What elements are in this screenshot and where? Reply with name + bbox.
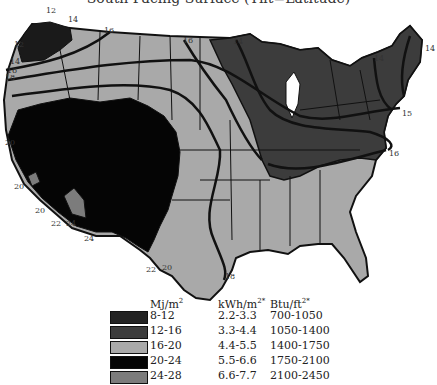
legend-kwh: 5.5-6.6 bbox=[218, 354, 257, 367]
contour-label: 14 bbox=[425, 44, 435, 53]
legend-mj: 20-24 bbox=[150, 354, 182, 367]
contour-label: 24 bbox=[66, 219, 76, 228]
legend-row: 20-24 5.5-6.6 1750-2100 bbox=[108, 354, 368, 368]
contour-label: 24 bbox=[84, 234, 94, 243]
contour-label: 14 bbox=[68, 15, 78, 24]
legend-row: 8-12 2.2-3.3 700-1050 bbox=[108, 309, 368, 323]
legend-mj: 16-20 bbox=[150, 339, 182, 352]
legend-kwh: 2.2-3.3 bbox=[218, 309, 257, 322]
contour-label: 22 bbox=[146, 265, 156, 274]
legend-swatch bbox=[110, 311, 148, 324]
legend-mj: 24-28 bbox=[150, 369, 182, 382]
contour-label: 18 bbox=[5, 73, 15, 82]
legend-row: 16-20 4.4-5.5 1400-1750 bbox=[108, 339, 368, 353]
contour-label: 20 bbox=[35, 206, 45, 215]
contour-label: 15 bbox=[402, 109, 412, 118]
legend-btu: 1750-2100 bbox=[270, 354, 330, 367]
legend-swatch bbox=[110, 326, 148, 339]
contour-label: 20 bbox=[162, 263, 172, 272]
legend-kwh: 4.4-5.5 bbox=[218, 339, 257, 352]
legend-row: 12-16 3.3-4.4 1050-1400 bbox=[108, 324, 368, 338]
contour-label: 16 bbox=[389, 149, 399, 158]
legend-kwh: 3.3-4.4 bbox=[218, 324, 257, 337]
contour-label: 22 bbox=[51, 219, 61, 228]
legend-mj: 8-12 bbox=[150, 309, 175, 322]
legend-row: 24-28 6.6-7.7 2100-2450 bbox=[108, 369, 368, 383]
legend-btu: 1400-1750 bbox=[270, 339, 330, 352]
legend-btu: 2100-2450 bbox=[270, 369, 330, 382]
contour-label: 14 bbox=[374, 54, 384, 63]
contour-label: 16 bbox=[104, 26, 114, 35]
legend-mj: 12-16 bbox=[150, 324, 182, 337]
contour-label: 18 bbox=[225, 272, 235, 281]
contour-label: 16 bbox=[183, 36, 193, 45]
contour-label: 20 bbox=[14, 182, 24, 191]
contour-label: 20 bbox=[5, 138, 15, 147]
contour-label: 12 bbox=[14, 40, 24, 49]
legend-btu: 700-1050 bbox=[270, 309, 323, 322]
legend-swatch bbox=[110, 356, 148, 369]
legend-swatch bbox=[110, 371, 148, 384]
legend-kwh: 6.6-7.7 bbox=[218, 369, 257, 382]
legend-swatch bbox=[110, 341, 148, 354]
legend-btu: 1050-1400 bbox=[270, 324, 330, 337]
contour-label: 12 bbox=[46, 6, 56, 15]
contour-label: 14 bbox=[233, 37, 243, 46]
contour-label: 14 bbox=[10, 57, 20, 66]
